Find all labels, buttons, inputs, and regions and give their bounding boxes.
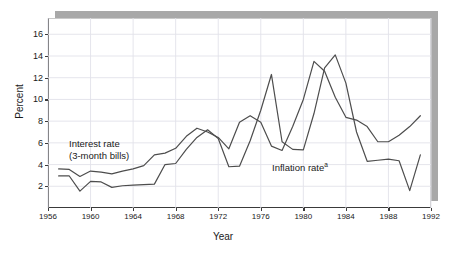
interest-rate-annotation: Interest rate (3-month bills)	[69, 138, 129, 161]
y-axis-title: Percent	[14, 67, 25, 137]
data-lines	[59, 55, 421, 191]
y-tick-mark	[45, 78, 48, 79]
x-tick-label: 1968	[156, 212, 196, 222]
x-tick-mark	[91, 208, 92, 211]
x-tick-label: 1960	[71, 212, 111, 222]
y-tick-label: 4	[25, 160, 43, 170]
y-tick-label: 14	[25, 51, 43, 61]
y-tick-label: 8	[25, 116, 43, 126]
x-tick-label: 1984	[326, 212, 366, 222]
x-tick-mark	[48, 208, 49, 211]
x-tick-label: 1964	[113, 212, 153, 222]
y-tick-label: 16	[25, 29, 43, 39]
x-tick-mark	[346, 208, 347, 211]
x-tick-mark	[176, 208, 177, 211]
y-tick-label: 10	[25, 94, 43, 104]
y-tick-mark	[45, 121, 48, 122]
x-tick-label: 1956	[28, 212, 68, 222]
x-tick-mark	[261, 208, 262, 211]
x-tick-mark	[303, 208, 304, 211]
y-tick-label: 2	[25, 181, 43, 191]
x-tick-label: 1992	[411, 212, 451, 222]
inflation-rate-annotation-text: Inflation rate	[272, 162, 324, 173]
interest-rate-annotation-line2: (3-month bills)	[69, 150, 129, 162]
x-tick-label: 1980	[283, 212, 323, 222]
inflation-rate-footnote-marker: a	[324, 161, 328, 168]
y-tick-mark	[45, 165, 48, 166]
inflation-rate-annotation: Inflation ratea	[272, 162, 328, 174]
interest-rate-annotation-line1: Interest rate	[69, 138, 129, 150]
y-tick-label: 12	[25, 73, 43, 83]
x-tick-label: 1976	[241, 212, 281, 222]
gridlines	[48, 18, 431, 208]
x-axis-title: Year	[183, 231, 263, 242]
y-tick-mark	[45, 56, 48, 57]
y-tick-mark	[45, 143, 48, 144]
chart-figure: 246810121416 195619601964196819721976198…	[0, 0, 456, 256]
y-tick-mark	[45, 186, 48, 187]
x-tick-mark	[388, 208, 389, 211]
x-tick-label: 1988	[368, 212, 408, 222]
y-tick-mark	[45, 34, 48, 35]
y-tick-mark	[45, 99, 48, 100]
plot-canvas	[48, 18, 431, 208]
x-tick-mark	[133, 208, 134, 211]
x-tick-label: 1972	[198, 212, 238, 222]
y-tick-label: 6	[25, 138, 43, 148]
x-tick-mark	[431, 208, 432, 211]
x-tick-mark	[218, 208, 219, 211]
